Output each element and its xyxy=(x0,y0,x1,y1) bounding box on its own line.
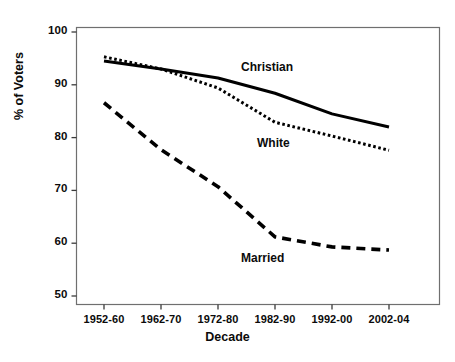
y-tick-label: 70 xyxy=(34,182,68,194)
x-axis-ticks xyxy=(104,305,389,310)
y-tick-label: 100 xyxy=(34,24,68,36)
y-tick-label: 90 xyxy=(34,77,68,89)
x-tick-label: 2002-04 xyxy=(357,313,421,325)
y-tick-label: 60 xyxy=(34,235,68,247)
x-tick-label: 1992-00 xyxy=(300,313,364,325)
series-label-christian: Christian xyxy=(241,60,293,74)
x-tick-label: 1952-60 xyxy=(72,313,136,325)
x-tick-label: 1972-80 xyxy=(186,313,250,325)
series-label-white: White xyxy=(257,136,290,150)
series-label-married: Married xyxy=(241,251,284,265)
x-axis-title: Decade xyxy=(0,330,455,344)
x-tick-label: 1982-90 xyxy=(243,313,307,325)
y-tick-label: 50 xyxy=(34,288,68,300)
chart-figure: 5060708090100 1952-601962-701972-801982-… xyxy=(0,0,455,362)
y-axis-title: % of Voters xyxy=(12,52,26,120)
plot-canvas xyxy=(0,0,455,362)
y-tick-label: 80 xyxy=(34,130,68,142)
y-axis-ticks xyxy=(72,32,77,296)
x-tick-label: 1962-70 xyxy=(129,313,193,325)
